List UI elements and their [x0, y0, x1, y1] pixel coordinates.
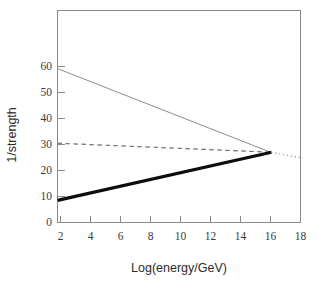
- x-tick-label: 16: [265, 230, 277, 242]
- y-tick-label: 60: [41, 60, 53, 72]
- series-dashed-flat-line: [58, 143, 271, 152]
- x-tick-label: 4: [88, 230, 94, 242]
- x-tick-label: 12: [205, 230, 217, 242]
- x-tick-labels: 2 4 6 8 10 12 14 16 18: [58, 230, 307, 242]
- y-tick-label: 0: [46, 216, 52, 228]
- x-tick-label: 6: [118, 230, 124, 242]
- series-thick-ascending-line: [58, 152, 272, 200]
- x-tick-label: 2: [58, 230, 64, 242]
- y-tick-label: 40: [41, 112, 53, 124]
- y-axis-title: 1/strength: [5, 107, 19, 163]
- x-tick-label: 10: [175, 230, 187, 242]
- y-tick-label: 50: [41, 86, 53, 98]
- line-chart-plot: 0 10 20 30 40 50 60 2 4 6 8 10 12 14 16 …: [0, 0, 317, 287]
- x-tick-label: 8: [148, 230, 154, 242]
- data-series-group: [58, 69, 304, 201]
- chart-figure: 0 10 20 30 40 50 60 2 4 6 8 10 12 14 16 …: [0, 0, 317, 287]
- series-thin-descending-line: [58, 69, 271, 153]
- x-axis-title: Log(energy/GeV): [131, 261, 227, 275]
- y-tick-label: 20: [41, 164, 53, 176]
- y-tick-labels: 0 10 20 30 40 50 60: [41, 60, 53, 228]
- x-tick-label: 14: [235, 230, 247, 242]
- y-tick-label: 30: [41, 138, 53, 150]
- series-dotted-extension-line: [271, 152, 303, 158]
- x-axis-ticks: [61, 216, 301, 223]
- x-tick-label: 18: [295, 230, 307, 242]
- y-tick-label: 10: [41, 190, 53, 202]
